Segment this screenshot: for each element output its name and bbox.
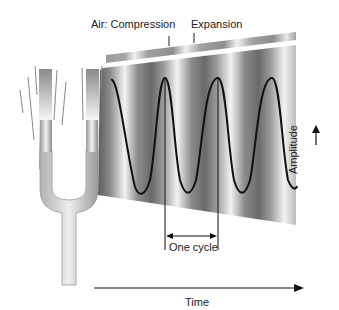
cycle-arrowhead-right — [210, 233, 217, 239]
cycle-arrowhead-left — [166, 233, 173, 239]
compression-label: Air: Compression — [91, 18, 175, 30]
one-cycle-label: One cycle — [169, 241, 218, 253]
time-arrowhead — [294, 284, 304, 292]
fork-left-prong — [40, 120, 52, 152]
expansion-label: Expansion — [191, 18, 242, 30]
time-label: Time — [185, 296, 209, 308]
fork-right-prong-lower — [86, 120, 98, 152]
sound-wave-region — [98, 45, 296, 225]
amplitude-arrowhead — [312, 125, 320, 133]
tuning-fork — [40, 150, 98, 285]
amplitude-label: Amplitude — [287, 125, 299, 174]
